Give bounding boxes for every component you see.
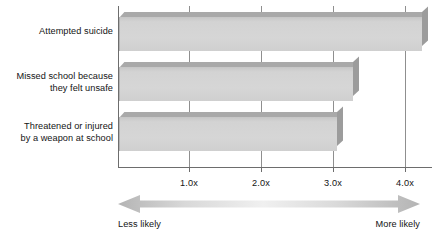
likelihood-arrow — [118, 193, 420, 215]
bar-threatened-or-injured — [119, 112, 337, 146]
x-axis-line — [118, 167, 432, 168]
bar-side-face — [353, 57, 359, 96]
bar-side-face — [337, 107, 343, 146]
bar-front-face — [119, 117, 337, 151]
bar-missed-school — [119, 62, 353, 96]
bar-side-face — [422, 7, 428, 46]
double-arrow-icon — [118, 193, 420, 215]
tick-2x — [261, 167, 262, 172]
category-label-threatened-or-injured: Threatened or injured by a weapon at sch… — [0, 121, 113, 144]
more-likely-label: More likely — [376, 219, 420, 229]
tick-3x — [333, 167, 334, 172]
bar-chart: Attempted suicide Missed school because … — [0, 0, 432, 237]
x-tick-label-3x: 3.0x — [311, 178, 355, 188]
plot-area: 1.0x 2.0x 3.0x 4.0x — [118, 6, 432, 168]
x-tick-label-1x: 1.0x — [167, 178, 211, 188]
category-label-missed-school: Missed school because they felt unsafe — [0, 71, 113, 94]
less-likely-label: Less likely — [118, 219, 161, 229]
bar-front-face — [119, 17, 422, 51]
bar-attempted-suicide — [119, 12, 422, 46]
bar-front-face — [119, 67, 353, 101]
x-tick-label-4x: 4.0x — [383, 178, 427, 188]
x-tick-label-2x: 2.0x — [239, 178, 283, 188]
tick-4x — [405, 167, 406, 172]
tick-1x — [189, 167, 190, 172]
category-label-attempted-suicide: Attempted suicide — [0, 26, 113, 38]
